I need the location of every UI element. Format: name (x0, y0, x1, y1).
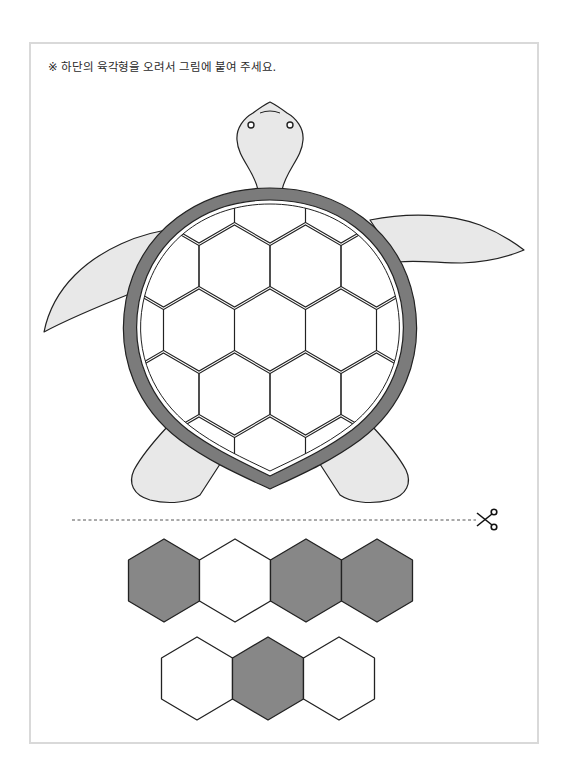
cutout-hex-dark[interactable] (129, 539, 200, 622)
turtle-illustration (0, 0, 566, 774)
cutout-hex-light[interactable] (162, 637, 233, 720)
scissors-icon (477, 509, 497, 530)
cutout-hex-dark[interactable] (271, 539, 342, 622)
turtle-head (237, 102, 303, 190)
cutout-row-1 (129, 539, 413, 622)
cutout-hex-dark[interactable] (342, 539, 413, 622)
cutout-row-2 (162, 637, 375, 720)
cutout-hex-dark[interactable] (233, 637, 304, 720)
cutout-hex-light[interactable] (304, 637, 375, 720)
cutout-hex-light[interactable] (200, 539, 271, 622)
left-eye-icon (248, 122, 254, 128)
right-eye-icon (287, 122, 293, 128)
